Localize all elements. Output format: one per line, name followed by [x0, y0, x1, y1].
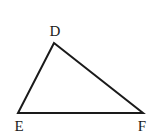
vertex-label-e: E: [14, 119, 23, 134]
triangle-shape: [18, 43, 143, 113]
triangle-diagram: D E F: [0, 0, 157, 136]
vertex-label-d: D: [50, 24, 61, 39]
triangle-def: [0, 0, 157, 136]
vertex-label-f: F: [138, 119, 146, 134]
